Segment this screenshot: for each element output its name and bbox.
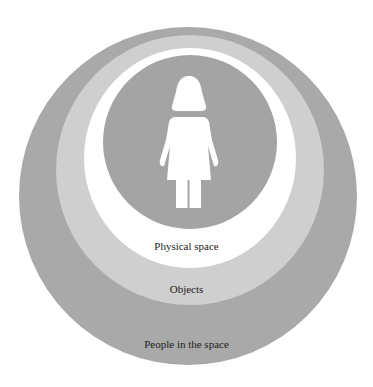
physical-space-label: Physical space: [0, 240, 373, 252]
people-in-the-space-label: People in the space: [0, 338, 373, 350]
concentric-diagram: Physical space Objects People in the spa…: [0, 0, 373, 387]
diagram-svg: [0, 0, 373, 387]
objects-label: Objects: [0, 283, 373, 295]
